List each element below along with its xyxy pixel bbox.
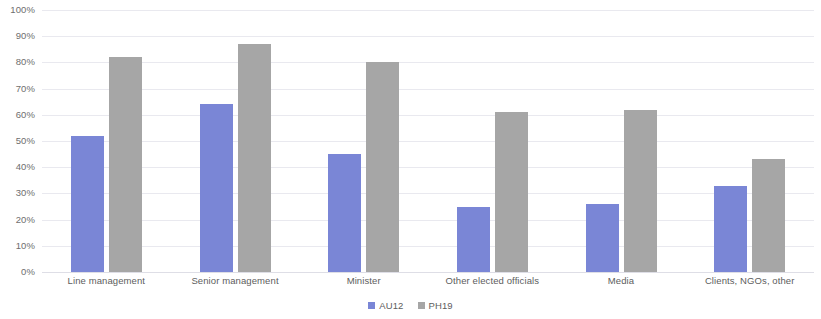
bar-au12[interactable] bbox=[586, 204, 619, 272]
bar-ph19[interactable] bbox=[366, 62, 399, 272]
x-axis-tick-label: Senior management bbox=[171, 276, 300, 286]
x-axis-tick-label: Other elected officials bbox=[428, 276, 557, 286]
y-axis-tick-label: 0% bbox=[0, 267, 35, 277]
y-axis-tick-label: 30% bbox=[0, 189, 35, 199]
gridline bbox=[42, 272, 814, 273]
x-axis-tick-label: Line management bbox=[42, 276, 171, 286]
legend-label: AU12 bbox=[379, 301, 403, 311]
x-axis-tick-label: Minister bbox=[299, 276, 428, 286]
x-axis-tick-label: Media bbox=[557, 276, 686, 286]
y-axis-tick-label: 90% bbox=[0, 31, 35, 41]
y-axis-tick-label: 70% bbox=[0, 84, 35, 94]
y-axis-tick-label: 20% bbox=[0, 215, 35, 225]
bar-au12[interactable] bbox=[328, 154, 361, 272]
y-axis-tick-label: 50% bbox=[0, 136, 35, 146]
bar-ph19[interactable] bbox=[109, 57, 142, 272]
y-axis-tick-label: 40% bbox=[0, 162, 35, 172]
bar-au12[interactable] bbox=[200, 104, 233, 272]
bar-group bbox=[42, 10, 171, 272]
bar-ph19[interactable] bbox=[752, 159, 785, 272]
bar-group bbox=[171, 10, 300, 272]
bar-chart: 0%10%20%30%40%50%60%70%80%90%100% Line m… bbox=[0, 0, 821, 319]
y-axis-tick-label: 60% bbox=[0, 110, 35, 120]
bars-layer bbox=[42, 10, 814, 272]
x-axis: Line managementSenior managementMinister… bbox=[42, 276, 814, 286]
bar-group bbox=[685, 10, 814, 272]
y-axis-tick-label: 10% bbox=[0, 241, 35, 251]
bar-group bbox=[428, 10, 557, 272]
legend-item-au12[interactable]: AU12 bbox=[368, 301, 403, 311]
bar-au12[interactable] bbox=[457, 207, 490, 273]
chart-legend: AU12PH19 bbox=[0, 301, 821, 311]
bar-ph19[interactable] bbox=[495, 112, 528, 272]
legend-item-ph19[interactable]: PH19 bbox=[418, 301, 453, 311]
legend-swatch-icon bbox=[368, 302, 375, 309]
legend-label: PH19 bbox=[429, 301, 453, 311]
bar-group bbox=[557, 10, 686, 272]
bar-au12[interactable] bbox=[714, 186, 747, 272]
legend-swatch-icon bbox=[418, 302, 425, 309]
bar-group bbox=[299, 10, 428, 272]
bar-ph19[interactable] bbox=[624, 110, 657, 272]
bar-au12[interactable] bbox=[71, 136, 104, 272]
bar-ph19[interactable] bbox=[238, 44, 271, 272]
y-axis-tick-label: 80% bbox=[0, 58, 35, 68]
y-axis-tick-label: 100% bbox=[0, 5, 35, 15]
x-axis-tick-label: Clients, NGOs, other bbox=[685, 276, 814, 286]
